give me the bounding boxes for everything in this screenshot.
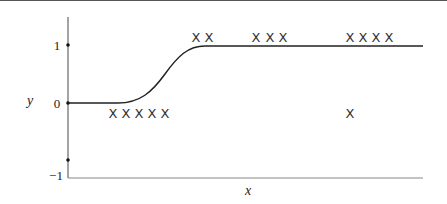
- y-tick-neg-dot: [66, 158, 70, 162]
- x-marker: X: [359, 30, 368, 45]
- x-marker: X: [252, 30, 261, 45]
- x-marker: X: [109, 106, 118, 121]
- x-marker: X: [385, 30, 394, 45]
- x-marker: X: [135, 106, 144, 121]
- y-tick-1-dot: [66, 43, 70, 47]
- outlier-x-marker: X: [346, 106, 355, 121]
- x-axis-label: x: [244, 183, 252, 198]
- x-marker: X: [148, 106, 157, 121]
- y-tick-label-0: 0: [54, 96, 61, 111]
- x-marker: X: [205, 30, 214, 45]
- chart: 1 0 −1 y x X X X X X X X X X X X X X X X: [0, 0, 447, 204]
- y-axis-label: y: [25, 93, 34, 108]
- x-marker: X: [372, 30, 381, 45]
- sigmoid-curve: [68, 46, 423, 103]
- x-marker: X: [266, 30, 275, 45]
- x-marker: X: [346, 30, 355, 45]
- y-tick-label-1: 1: [54, 38, 61, 53]
- y-tick-label-neg1: −1: [49, 168, 63, 183]
- markers-at-0: X X X X X: [109, 106, 170, 121]
- markers-at-1: X X X X X X X X X: [192, 30, 394, 45]
- x-marker: X: [122, 106, 131, 121]
- x-marker: X: [279, 30, 288, 45]
- x-marker: X: [192, 30, 201, 45]
- x-marker: X: [161, 106, 170, 121]
